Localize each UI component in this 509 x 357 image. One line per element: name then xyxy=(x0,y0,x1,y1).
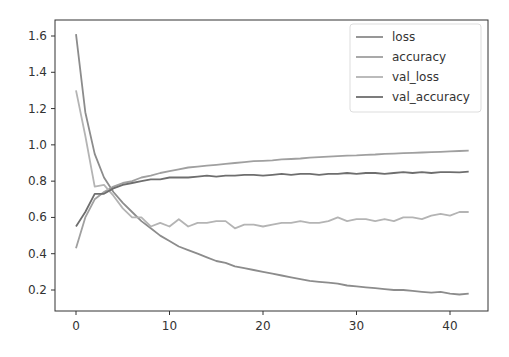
y-tick-label: 0.8 xyxy=(28,174,47,188)
x-tick-label: 0 xyxy=(72,319,80,333)
legend-label-val-accuracy: val_accuracy xyxy=(392,90,470,104)
y-tick-label: 1.6 xyxy=(28,29,47,43)
series-line-accuracy xyxy=(76,151,469,249)
x-tick-label: 10 xyxy=(162,319,177,333)
x-tick-label: 20 xyxy=(255,319,270,333)
y-tick-label: 0.4 xyxy=(28,247,47,261)
line-chart: 010203040 0.20.40.60.81.01.21.41.6 lossa… xyxy=(0,0,509,357)
y-tick-label: 1.4 xyxy=(28,65,47,79)
y-tick-label: 0.2 xyxy=(28,283,47,297)
y-axis: 0.20.40.60.81.01.21.41.6 xyxy=(28,29,55,297)
x-axis: 010203040 xyxy=(72,311,457,333)
x-tick-label: 40 xyxy=(442,319,457,333)
legend-label-loss: loss xyxy=(392,30,415,44)
legend-label-val-loss: val_loss xyxy=(392,70,439,84)
y-tick-label: 1.0 xyxy=(28,138,47,152)
legend: lossaccuracyval_lossval_accuracy xyxy=(350,24,481,112)
legend-label-accuracy: accuracy xyxy=(392,50,446,64)
y-tick-label: 0.6 xyxy=(28,210,47,224)
y-tick-label: 1.2 xyxy=(28,102,47,116)
x-tick-label: 30 xyxy=(349,319,364,333)
